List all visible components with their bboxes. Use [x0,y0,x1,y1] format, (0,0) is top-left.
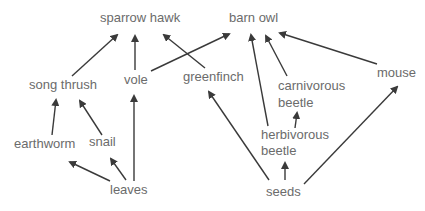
node-sparrow-hawk: sparrow hawk [100,10,180,26]
arrow-greenfinch-to-sparrow-hawk [164,35,205,68]
arrow-leaves-to-snail [111,159,126,180]
food-web-arrows [0,0,425,211]
arrow-herbivorous-to-carnivorous-beetle [295,113,297,128]
arrow-song-thrush-to-sparrow-hawk [72,35,117,76]
node-herbivorous-beetle-line2: beetle [261,143,296,159]
node-leaves: leaves [110,182,148,198]
arrow-carnivorous-beetle-to-barn-owl [266,36,287,76]
node-song-thrush: song thrush [29,77,97,93]
node-barn-owl: barn owl [229,10,278,26]
node-carnivorous-beetle-line1: carnivorous [278,78,345,94]
arrow-mouse-to-barn-owl [280,33,377,64]
arrow-vole-to-barn-owl [151,34,229,71]
node-earthworm: earthworm [14,136,75,152]
node-carnivorous-beetle-line2: beetle [278,95,313,111]
arrow-snail-to-song-thrush [80,101,102,135]
arrow-earthworm-to-song-thrush [52,100,56,135]
arrow-herbivorous-beetle-to-barn-owl [251,35,268,126]
arrow-leaves-to-earthworm [70,162,110,181]
node-greenfinch: greenfinch [183,69,244,85]
node-vole: vole [124,72,148,88]
node-mouse: mouse [377,65,416,81]
node-snail: snail [89,134,116,150]
arrow-seeds-to-greenfinch [209,92,269,180]
node-seeds: seeds [266,184,301,200]
node-herbivorous-beetle-line1: herbivorous [261,127,329,143]
